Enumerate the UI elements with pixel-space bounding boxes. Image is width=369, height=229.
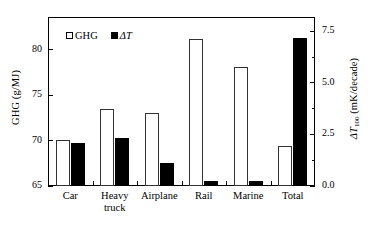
y-tick-right <box>310 134 315 135</box>
y-tick-right <box>310 31 315 32</box>
x-category-label: Airplane <box>137 190 182 202</box>
y-tick-left <box>48 95 53 96</box>
bar-ghg <box>56 140 70 186</box>
x-tick <box>93 181 94 186</box>
y-tick-label-left: 65 <box>20 179 42 190</box>
x-category-label: Total <box>271 190 316 202</box>
legend-label-ghg: GHG <box>75 30 98 41</box>
bar-ghg <box>189 39 203 186</box>
y-tick-left <box>48 140 53 141</box>
bar-ghg <box>278 146 292 186</box>
legend-label-delta-t: ΔT <box>120 30 132 41</box>
bar-delta-t <box>71 143 85 186</box>
plot-area <box>48 17 315 186</box>
y-tick-right-minor <box>312 57 315 58</box>
legend-item-ghg: GHG <box>66 30 98 41</box>
y-axis-right-title: ΔT100 (mK/decade) <box>348 36 361 162</box>
x-tick <box>226 181 227 186</box>
y-tick-right-minor <box>312 160 315 161</box>
y-tick-label-left: 80 <box>20 43 42 54</box>
bar-ghg <box>145 113 159 186</box>
y-tick-label-right: 5.0 <box>322 76 348 87</box>
x-category-label: Marine <box>226 190 271 202</box>
bar-delta-t <box>293 38 307 186</box>
y-tick-label-right: 7.5 <box>322 24 348 35</box>
y-tick-label-left: 75 <box>20 88 42 99</box>
chart-figure: GHG (g/MJ) ΔT100 (mK/decade) GHG ΔT 8075… <box>0 0 369 229</box>
y-tick-left <box>48 49 53 50</box>
bar-delta-t <box>160 163 174 186</box>
y-tick-left <box>48 186 53 187</box>
x-category-label: Rail <box>182 190 227 202</box>
filled-square-icon <box>111 32 118 39</box>
y-tick-right-minor <box>312 108 315 109</box>
y-axis-right-unit: (mK/decade) <box>348 58 359 117</box>
y-tick-right <box>310 82 315 83</box>
legend-item-delta-t: ΔT <box>111 30 132 41</box>
bar-ghg <box>100 109 114 186</box>
bar-delta-t <box>249 181 263 186</box>
chart-legend: GHG ΔT <box>66 30 132 41</box>
open-square-icon <box>66 32 73 39</box>
y-axis-left-title: GHG (g/MJ) <box>10 50 21 146</box>
x-tick <box>137 181 138 186</box>
y-tick-label-left: 70 <box>20 134 42 145</box>
x-category-label: Heavy truck <box>93 190 138 213</box>
y-tick-label-right: 2.5 <box>322 127 348 138</box>
y-tick-right <box>310 186 315 187</box>
x-tick <box>271 181 272 186</box>
bar-ghg <box>234 67 248 186</box>
x-tick <box>182 181 183 186</box>
y-axis-right-subscript: 100 <box>353 116 361 127</box>
bar-delta-t <box>204 181 218 186</box>
bar-delta-t <box>115 138 129 186</box>
y-axis-right-symbol: ΔT <box>348 127 359 139</box>
x-category-label: Car <box>48 190 93 202</box>
y-tick-label-right: 0.0 <box>322 179 348 190</box>
